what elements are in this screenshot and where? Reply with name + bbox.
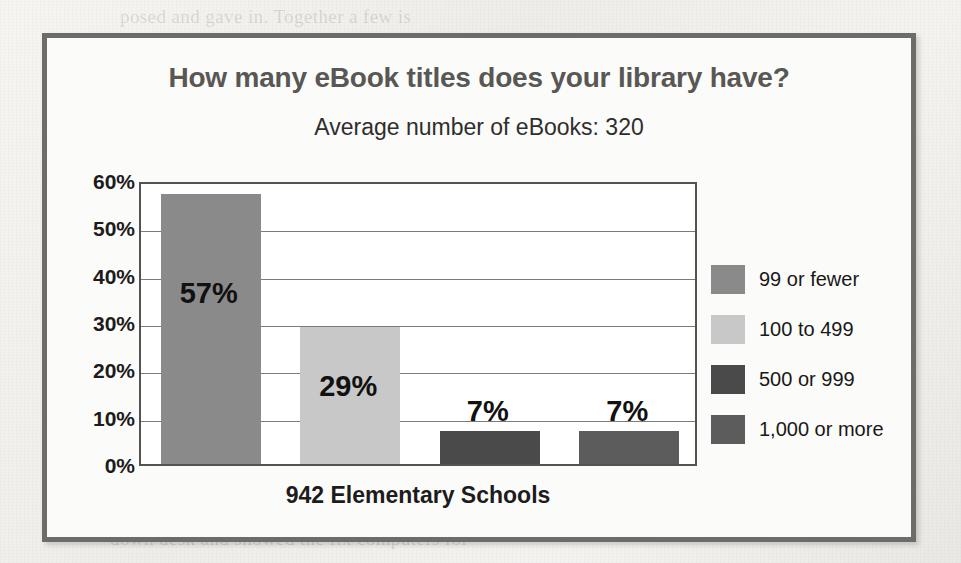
bar-value-label: 29% — [319, 370, 377, 403]
y-axis-tick-label: 20% — [57, 359, 135, 383]
legend-item[interactable]: 500 or 999 — [711, 362, 855, 396]
y-axis-tick-labels: 0%10%20%30%40%50%60% — [51, 182, 135, 466]
y-axis-tick-label: 30% — [57, 312, 135, 336]
legend-label: 100 to 499 — [759, 318, 854, 341]
bar-value-label: 57% — [180, 277, 238, 310]
chart-frame: How many eBook titles does your library … — [42, 33, 916, 542]
chart-title: How many eBook titles does your library … — [47, 62, 911, 94]
y-axis-tick-label: 0% — [57, 454, 135, 478]
y-axis-tick-label: 50% — [57, 217, 135, 241]
bar — [440, 431, 540, 464]
bleed-through-text: posed and gave in. Together a few is — [120, 6, 411, 28]
legend-label: 500 or 999 — [759, 368, 855, 391]
bar — [161, 194, 261, 464]
y-axis-tick-label: 10% — [57, 407, 135, 431]
legend-item[interactable]: 1,000 or more — [711, 412, 884, 446]
legend-item[interactable]: 100 to 499 — [711, 312, 854, 346]
legend-swatch — [711, 365, 745, 394]
chart-subtitle: Average number of eBooks: 320 — [47, 114, 911, 141]
legend-swatch — [711, 265, 745, 294]
bar-value-label: 7% — [467, 395, 509, 428]
legend-swatch — [711, 415, 745, 444]
y-axis-tick-label: 60% — [57, 170, 135, 194]
legend-label: 1,000 or more — [759, 418, 884, 441]
y-axis-tick-label: 40% — [57, 265, 135, 289]
legend-label: 99 or fewer — [759, 268, 859, 291]
scanned-chart-page: posed and gave in. Together a few isand … — [0, 0, 961, 563]
bar-value-label: 7% — [606, 395, 648, 428]
x-axis-label: 942 Elementary Schools — [139, 482, 697, 509]
legend-item[interactable]: 99 or fewer — [711, 262, 859, 296]
legend-swatch — [711, 315, 745, 344]
bar — [579, 431, 679, 464]
